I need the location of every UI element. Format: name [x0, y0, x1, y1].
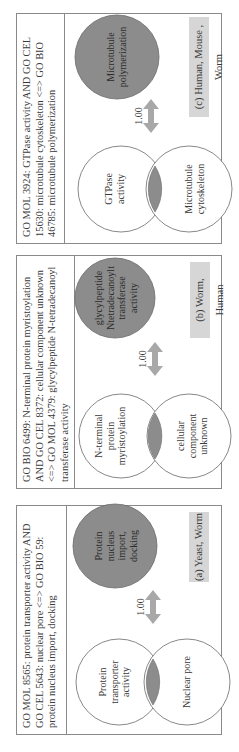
target-term-label: glycylpeptide Ntetradecanoylt transferas… [93, 262, 139, 334]
venn-left-label: GTPase activity [103, 163, 126, 215]
venn-right-label: Nuclear pore [181, 640, 193, 724]
venn-right-label: cellular component unknown [175, 398, 210, 474]
panel-c-diagram: GTPase activity Microtubule cytoskeleton… [65, 14, 221, 243]
venn-left-label: N-terminal protein myristoylation [93, 402, 128, 470]
panel-a: GO MOL 8565: protein transporter activit… [16, 505, 222, 735]
double-arrow-icon [147, 342, 163, 376]
panel-b: GO BIO 6499: N-terminal protein myristoy… [16, 255, 222, 489]
target-term-label: Protein nucleus import, docking [93, 521, 139, 571]
score-label: 1.00 [137, 347, 149, 371]
panel-b-diagram: N-terminal protein myristoylation cellul… [75, 256, 221, 488]
panel-a-diagram: Protein transporter activity Nuclear por… [67, 506, 221, 734]
venn-left-label: Protein transporter activity [97, 652, 132, 712]
double-arrow-icon [143, 99, 159, 133]
score-label: 1.00 [133, 104, 145, 128]
panel-c-caption: GO MOL 3924: GTPase activity AND GO CEL … [17, 14, 65, 243]
species-label: (a) Yeast, Worm [189, 512, 209, 582]
panel-c: GO MOL 3924: GTPase activity AND GO CEL … [16, 13, 222, 244]
double-arrow-icon [145, 590, 161, 624]
target-term-label: Microtubule polymerization [105, 23, 128, 91]
venn-right-label: Microtubule cytoskeleton [183, 153, 206, 225]
species-label: (c) Human, Mouse , Worm [189, 17, 209, 117]
panel-a-caption: GO MOL 8565: protein transporter activit… [17, 506, 67, 734]
score-label: 1.00 [135, 595, 147, 619]
species-label: (b) Worm, Human [190, 262, 210, 338]
panel-b-caption: GO BIO 6499: N-terminal protein myristoy… [17, 256, 75, 488]
figure-stage: GO MOL 8565: protein transporter activit… [0, 0, 239, 752]
